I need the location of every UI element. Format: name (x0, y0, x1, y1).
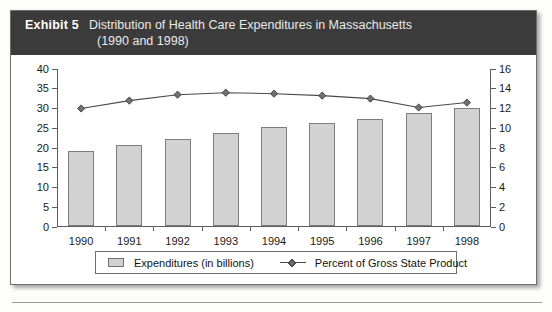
y-right-tick-label: 10 (499, 123, 511, 134)
chart-legend: Expenditures (in billions) Percent of Gr… (95, 251, 457, 274)
plot-area: 0510152025303540 0246810121416 199019911… (57, 69, 491, 227)
x-axis-label-1990: 1990 (69, 235, 93, 247)
percent-gsp-marker-1992 (174, 91, 181, 98)
exhibit-label: Exhibit 5 (25, 18, 79, 32)
percent-gsp-marker-1996 (367, 95, 374, 102)
y-right-tick (491, 167, 496, 168)
exhibit-title-line1: Exhibit 5Distribution of Health Care Exp… (25, 17, 536, 33)
y-right-tick (491, 187, 496, 188)
percent-gsp-marker-1991 (126, 97, 133, 104)
y-left-tick-label: 40 (37, 64, 49, 75)
x-axis-label-1991: 1991 (117, 235, 141, 247)
y-left-tick-label: 35 (37, 83, 49, 94)
y-right-tick-label: 0 (499, 222, 505, 233)
y-right-tick-label: 4 (499, 182, 505, 193)
y-left-tick-label: 5 (43, 202, 49, 213)
exhibit-title-text: Distribution of Health Care Expenditures… (89, 18, 412, 32)
x-axis-tick (346, 227, 347, 231)
legend-label-expenditures: Expenditures (in billions) (134, 257, 254, 269)
y-left-tick-label: 20 (37, 143, 49, 154)
y-right-tick-label: 2 (499, 202, 505, 213)
y-left-tick-label: 0 (43, 222, 49, 233)
x-axis-label-1992: 1992 (165, 235, 189, 247)
x-axis-label-1996: 1996 (358, 235, 382, 247)
x-axis-label-1993: 1993 (214, 235, 238, 247)
percent-gsp-marker-1998 (463, 99, 470, 106)
y-right-tick-label: 12 (499, 103, 511, 114)
y-right-tick-label: 16 (499, 64, 511, 75)
x-axis-tick (202, 227, 203, 231)
y-left-tick-label: 15 (37, 162, 49, 173)
y-left-tick-label: 25 (37, 123, 49, 134)
exhibit-header: Exhibit 5Distribution of Health Care Exp… (11, 11, 536, 55)
percent-gsp-marker-1993 (222, 89, 229, 96)
y-right-tick (491, 148, 496, 149)
legend-line-diamond-icon (280, 258, 306, 267)
legend-item-percent-gsp: Percent of Gross State Product (280, 257, 467, 269)
x-axis-label-1995: 1995 (310, 235, 334, 247)
y-left-tick-label: 10 (37, 182, 49, 193)
y-right-tick (491, 227, 496, 228)
legend-swatch-box-icon (108, 258, 124, 267)
page-bottom-rule (12, 302, 542, 303)
chart-body: 0510152025303540 0246810121416 199019911… (11, 55, 536, 284)
percent-gsp-marker-1997 (415, 104, 422, 111)
y-right-tick-label: 8 (499, 143, 505, 154)
x-axis-tick (443, 227, 444, 231)
x-axis-tick (250, 227, 251, 231)
x-axis-label-1998: 1998 (455, 235, 479, 247)
x-axis-label-1994: 1994 (262, 235, 286, 247)
percent-gsp-marker-1994 (270, 90, 277, 97)
y-right-tick (491, 108, 496, 109)
x-axis-label-1997: 1997 (406, 235, 430, 247)
line-series (57, 69, 491, 227)
y-left-tick-label: 30 (37, 103, 49, 114)
y-right-tick (491, 128, 496, 129)
exhibit-panel: Exhibit 5Distribution of Health Care Exp… (10, 10, 537, 285)
legend-diamond-marker-icon (288, 258, 296, 266)
y-right-tick (491, 69, 496, 70)
percent-gsp-marker-1990 (78, 105, 85, 112)
legend-item-expenditures: Expenditures (in billions) (108, 257, 254, 269)
exhibit-title-subtitle: (1990 and 1998) (97, 33, 536, 49)
percent-gsp-marker-1995 (319, 92, 326, 99)
x-axis-tick (153, 227, 154, 231)
y-right-tick (491, 88, 496, 89)
x-axis-tick (395, 227, 396, 231)
y-right-tick-label: 14 (499, 83, 511, 94)
y-right-tick-label: 6 (499, 162, 505, 173)
x-axis-tick (298, 227, 299, 231)
legend-label-percent-gsp: Percent of Gross State Product (315, 257, 467, 269)
x-axis-tick (105, 227, 106, 231)
y-right-tick (491, 207, 496, 208)
